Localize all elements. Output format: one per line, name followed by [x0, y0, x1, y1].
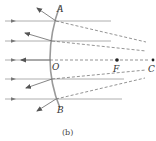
focal-point-F [115, 58, 119, 62]
convex-mirror-diagram: A B O F C (b) [0, 0, 156, 141]
incident-arrow-icons [11, 19, 16, 100]
figure-caption: (b) [62, 128, 73, 137]
label-C: C [148, 64, 155, 74]
label-F: F [112, 64, 120, 74]
label-A: A [56, 4, 64, 14]
label-O: O [52, 62, 60, 72]
virtual-ray-extensions [50, 21, 150, 99]
center-point-C [152, 59, 155, 62]
label-B: B [56, 105, 64, 115]
